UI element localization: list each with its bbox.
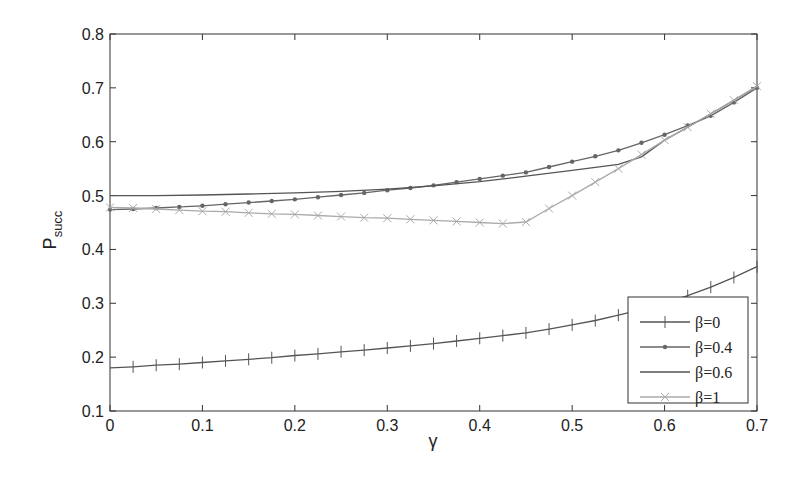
- dot-marker: [663, 345, 667, 349]
- y-tick-label: 0.5: [82, 188, 104, 205]
- x-tick-label: 0.7: [746, 417, 768, 434]
- svg-text:Psucc: Psucc: [40, 210, 65, 249]
- legend-label: β=1: [695, 389, 720, 407]
- x-axis-label: γ: [429, 431, 438, 451]
- y-axis-label: Psucc: [40, 210, 65, 249]
- dot-marker: [316, 195, 320, 199]
- dot-marker: [270, 199, 274, 203]
- y-axis-label-sub: succ: [50, 210, 65, 237]
- x-tick-label: 0: [106, 417, 115, 434]
- dot-marker: [639, 141, 643, 145]
- dot-marker: [478, 177, 482, 181]
- y-tick-label: 0.6: [82, 134, 104, 151]
- dot-marker: [547, 165, 551, 169]
- x-tick-label: 0.3: [376, 417, 398, 434]
- y-tick-label: 0.7: [82, 80, 104, 97]
- dot-marker: [246, 200, 250, 204]
- legend-label: β=0.4: [695, 339, 732, 357]
- legend-label: β=0.6: [695, 364, 732, 382]
- y-tick-label: 0.1: [82, 403, 104, 420]
- x-tick-label: 0.2: [284, 417, 306, 434]
- line-chart: 00.10.20.30.40.50.60.7 0.10.20.30.40.50.…: [0, 0, 797, 482]
- y-tick-label: 0.2: [82, 349, 104, 366]
- dot-marker: [593, 154, 597, 158]
- legend: β=0β=0.4β=0.6β=1: [628, 297, 748, 407]
- y-tick-label: 0.8: [82, 26, 104, 43]
- dot-marker: [293, 197, 297, 201]
- dot-marker: [570, 159, 574, 163]
- dot-marker: [524, 170, 528, 174]
- y-axis-label-main: P: [40, 237, 60, 249]
- dot-marker: [339, 193, 343, 197]
- x-tick-label: 0.6: [653, 417, 675, 434]
- dot-marker: [501, 173, 505, 177]
- dot-marker: [616, 148, 620, 152]
- x-tick-label: 0.5: [561, 417, 583, 434]
- dot-marker: [362, 191, 366, 195]
- x-tick-label: 0.1: [191, 417, 213, 434]
- y-tick-label: 0.3: [82, 295, 104, 312]
- dot-marker: [662, 133, 666, 137]
- y-tick-label: 0.4: [82, 241, 104, 258]
- dot-marker: [200, 204, 204, 208]
- dot-marker: [223, 202, 227, 206]
- legend-label: β=0: [695, 314, 720, 332]
- x-tick-label: 0.4: [469, 417, 491, 434]
